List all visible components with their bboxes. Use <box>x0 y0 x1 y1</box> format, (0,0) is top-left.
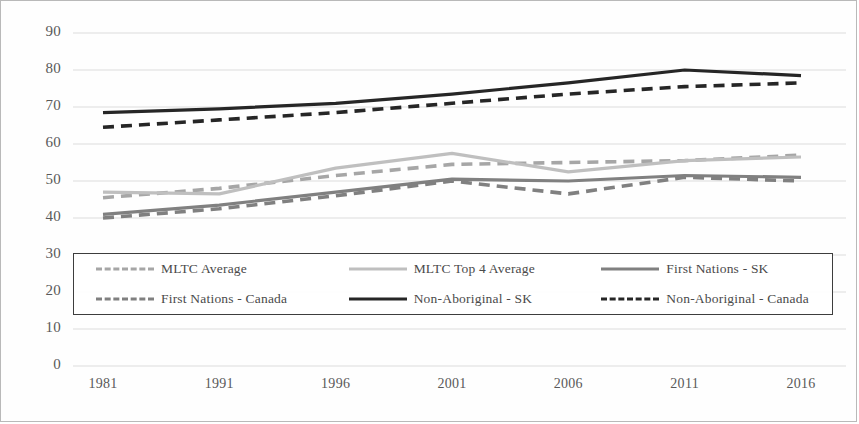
x-axis-tick-label: 1991 <box>184 376 254 392</box>
legend-item: Non-Aboriginal - SK <box>327 291 580 307</box>
legend-label: First Nations - Canada <box>161 291 287 307</box>
series-line <box>103 177 801 218</box>
chart-legend: MLTC AverageMLTC Top 4 AverageFirst Nati… <box>73 253 833 315</box>
y-axis-tick-label: 0 <box>21 356 61 373</box>
legend-label: Non-Aboriginal - SK <box>414 291 533 307</box>
gridlines <box>73 33 846 366</box>
legend-item: MLTC Top 4 Average <box>327 261 580 277</box>
y-axis-tick-label: 20 <box>21 282 61 299</box>
series-line <box>103 70 801 113</box>
y-axis-tick-label: 30 <box>21 245 61 262</box>
legend-item: MLTC Average <box>74 261 327 277</box>
x-axis-tick-label: 2016 <box>766 376 836 392</box>
y-axis-tick-label: 40 <box>21 208 61 225</box>
legend-label: First Nations - SK <box>666 261 768 277</box>
legend-label: Non-Aboriginal - Canada <box>666 291 809 307</box>
y-axis-tick-label: 10 <box>21 319 61 336</box>
x-axis-tick-label: 1981 <box>68 376 138 392</box>
line-chart-plot <box>1 1 858 423</box>
y-axis-tick-label: 90 <box>21 23 61 40</box>
y-axis-tick-label: 70 <box>21 97 61 114</box>
y-axis-tick-label: 80 <box>21 60 61 77</box>
legend-item: First Nations - SK <box>579 261 832 277</box>
y-axis-tick-label: 50 <box>21 171 61 188</box>
legend-item: First Nations - Canada <box>74 291 327 307</box>
legend-item: Non-Aboriginal - Canada <box>579 291 832 307</box>
x-axis-tick-label: 2011 <box>650 376 720 392</box>
y-axis-tick-label: 60 <box>21 134 61 151</box>
series-line <box>103 83 801 127</box>
series-line <box>103 153 801 194</box>
legend-label: MLTC Top 4 Average <box>414 261 535 277</box>
x-axis-tick-label: 2001 <box>417 376 487 392</box>
x-axis-tick-label: 1996 <box>301 376 371 392</box>
x-axis-tick-label: 2006 <box>533 376 603 392</box>
chart-frame: 9080706050403020100 19811991199620012006… <box>0 0 857 422</box>
legend-label: MLTC Average <box>161 261 247 277</box>
